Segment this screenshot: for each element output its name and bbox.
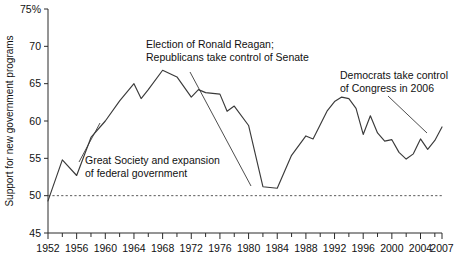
y-tick-label: 60 (29, 115, 41, 127)
line-chart: 75%7065605550451952195619601964196819721… (0, 0, 463, 272)
annotation-reagan-election: Election of Ronald Reagan; (146, 38, 274, 50)
annotation-great-society: Great Society and expansion (85, 154, 220, 166)
y-axis-title: Support for new government programs (4, 35, 15, 206)
y-tick-label: 65 (29, 77, 41, 89)
annotation-reagan-election: Republicans take control of Senate (146, 51, 309, 63)
x-tick-label: 1984 (266, 242, 290, 254)
x-tick-label: 2004 (409, 242, 433, 254)
x-tick-label: 1956 (65, 242, 89, 254)
annotation-great-society: of federal government (85, 167, 187, 179)
y-tick-label: 50 (29, 189, 41, 201)
y-tick-label: 55 (29, 152, 41, 164)
x-tick-label: 1996 (352, 242, 376, 254)
y-tick-label: 75% (20, 3, 41, 15)
x-tick-label: 1972 (180, 242, 204, 254)
chart-container: 75%7065605550451952195619601964196819721… (0, 0, 463, 272)
annotation-leader-democrats-congress (388, 96, 427, 133)
annotation-leader-reagan-election (190, 72, 251, 186)
x-tick-label: 2007 (430, 242, 454, 254)
annotation-democrats-congress: Democrats take control (340, 69, 448, 81)
x-tick-label: 2000 (380, 242, 404, 254)
x-tick-label: 1976 (208, 242, 232, 254)
x-tick-label: 1964 (122, 242, 146, 254)
x-tick-label: 1952 (36, 242, 60, 254)
x-tick-label: 1988 (294, 242, 318, 254)
y-tick-label: 70 (29, 40, 41, 52)
x-tick-label: 1968 (151, 242, 175, 254)
x-tick-label: 1960 (94, 242, 118, 254)
x-tick-label: 1992 (323, 242, 347, 254)
x-tick-label: 1980 (237, 242, 261, 254)
y-tick-label: 45 (29, 227, 41, 239)
annotation-democrats-congress: of Congress in 2006 (340, 82, 434, 94)
